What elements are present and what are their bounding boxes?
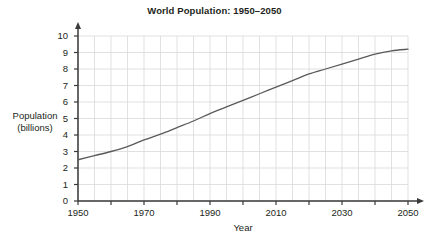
chart-figure: World Population: 1950–2050 Population (… xyxy=(0,0,429,242)
axis-tick-marks xyxy=(74,36,408,205)
x-axis-arrowhead xyxy=(417,198,424,204)
y-axis-arrowhead xyxy=(75,22,81,29)
plot-area xyxy=(0,0,429,242)
